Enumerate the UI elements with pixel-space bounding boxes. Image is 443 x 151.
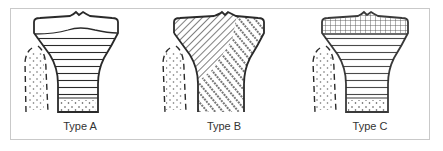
type-a-diagram <box>25 12 122 112</box>
type-b-diagram <box>163 10 270 115</box>
type-c-diagram <box>313 10 412 112</box>
fibula-b <box>163 46 186 112</box>
label-type-a: Type A <box>40 119 120 133</box>
label-type-b: Type B <box>184 119 264 133</box>
fibula-a <box>25 46 48 112</box>
label-type-c: Type C <box>330 119 410 133</box>
fibula-c <box>313 46 336 112</box>
